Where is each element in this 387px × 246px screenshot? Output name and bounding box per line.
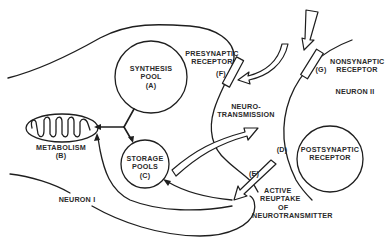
neuron-1-label: NEURON I: [52, 196, 102, 204]
nonsynaptic-incoming-arrow: [302, 10, 318, 50]
storage-pools-label: STORAGE POOLS (C): [122, 155, 168, 180]
mitochondrion-icon: [26, 114, 98, 142]
presynaptic-receptor-tag: (F): [213, 70, 229, 78]
neuron-2-label: NEURON II: [330, 88, 380, 96]
reuptake-to-storage-path: [168, 182, 232, 200]
postsynaptic-receptor-label: POSTSYNAPTIC RECEPTOR: [299, 146, 361, 163]
neuron-1-lower-membrane-2: [92, 196, 255, 236]
nonsynaptic-receptor-tag: (G): [313, 66, 329, 74]
presynaptic-feedback-arrow: [238, 44, 288, 84]
synthesis-branch-line: [124, 109, 134, 127]
cropped-title: [60, 0, 310, 4]
synthesis-pool-label: SYNTHESIS POOL (A): [128, 65, 174, 90]
presynaptic-receptor-label: PRESYNAPTIC RECEPTOR: [184, 50, 240, 67]
neurotransmission-diagram: SYNTHESIS POOL (A) METABOLISM (B) STORAG…: [0, 0, 387, 246]
metabolism-label: METABOLISM (B): [30, 144, 92, 161]
reuptake-label: ACTIVE REUPTAKE OF NEUROTRANSMITTER: [256, 187, 336, 221]
neuron-1-lower-membrane: [10, 174, 70, 193]
storage-arrowhead: [128, 136, 134, 143]
reuptake-tag: (E): [246, 170, 262, 178]
postsynaptic-receptor-tag: (D): [274, 146, 290, 154]
neurotransmission-label: NEURO- TRANSMISSION: [214, 103, 278, 120]
neurotransmission-arrow: [172, 128, 258, 176]
nonsynaptic-receptor-label: NONSYNAPTIC RECEPTOR: [330, 58, 384, 75]
